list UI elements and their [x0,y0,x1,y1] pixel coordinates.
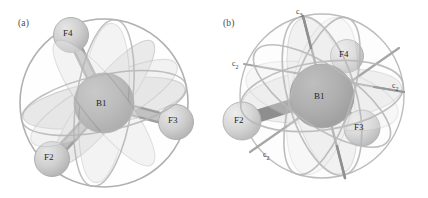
c2-axis-label-right: c2 [392,81,399,92]
panel-a: (a) [0,0,214,198]
c3-axis-label: c3 [296,7,303,18]
c2-axis-label-upper-left: c2 [232,59,239,70]
c2-axis-label-lower-left: c2 [263,150,270,161]
panel-a-graphic [0,0,214,198]
atom-f2-b [223,102,261,140]
panel-b: (b) [214,0,428,198]
panel-b-graphic [214,0,428,198]
figure-canvas: (a) [0,0,428,198]
atom-f3-a [159,105,194,140]
